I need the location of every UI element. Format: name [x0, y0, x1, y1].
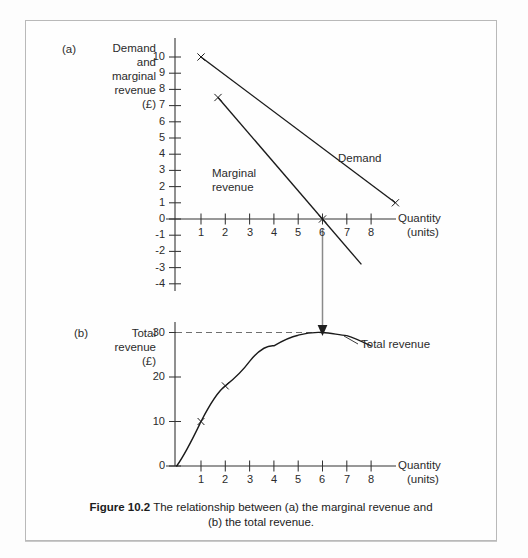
panel-a-ytick-10: 10	[143, 50, 165, 62]
panel-b-ytick-0: 0	[143, 459, 165, 471]
panel-a-x-axis-title: Quantity (units)	[398, 211, 468, 239]
panel-a-ytick-neg1: -1	[139, 228, 165, 240]
panel-b-xtick-6: 6	[314, 473, 330, 485]
panel-b-y-axis-title-line-2: revenue	[76, 340, 156, 354]
figure-caption: Figure 10.2 The relationship between (a)…	[40, 500, 482, 530]
panel-a-xtick-4: 4	[266, 226, 282, 238]
panel-a-ytick-6: 6	[143, 115, 165, 127]
marginal-revenue-label-line-1: Marginal	[212, 166, 256, 180]
panel-b-x-axis-title-line-2: (units)	[398, 472, 468, 486]
panel-a-x-axis-title-line-2: (units)	[398, 225, 468, 239]
panel-b-x-axis-title-line-1: Quantity	[398, 458, 468, 472]
panel-b-xtick-3: 3	[242, 473, 258, 485]
panel-b-xtick-1: 1	[193, 473, 209, 485]
panel-a-ytick-neg2: -2	[139, 244, 165, 256]
total-revenue-curve-label: Total revenue	[361, 337, 430, 351]
panel-a-ytick-neg3: -3	[139, 261, 165, 273]
panel-a-xtick-3: 3	[242, 226, 258, 238]
panel-a-xtick-5: 5	[290, 226, 306, 238]
marginal-revenue-label-line-2: revenue	[212, 180, 256, 194]
panel-b-xtick-2: 2	[217, 473, 233, 485]
panel-a-xtick-7: 7	[339, 226, 355, 238]
panel-b-xtick-4: 4	[266, 473, 282, 485]
figure-caption-text: The relationship between (a) the margina…	[153, 501, 432, 513]
demand-curve-label: Demand	[338, 151, 381, 165]
panel-a-xtick-1: 1	[193, 226, 209, 238]
panel-a-xtick-6: 6	[314, 226, 330, 238]
panel-a-xtick-8: 8	[363, 226, 379, 238]
panel-a-ytick-2: 2	[143, 180, 165, 192]
linking-arrow	[318, 228, 328, 336]
panel-a-ytick-neg4: -4	[139, 277, 165, 289]
panel-b-xtick-7: 7	[339, 473, 355, 485]
figure-container: (a) Demand and marginal revenue (£) 10 9…	[0, 0, 528, 558]
total-revenue-curve	[177, 332, 371, 466]
panel-a-ytick-7: 7	[143, 98, 165, 110]
figure-caption-label: Figure 10.2	[89, 501, 150, 513]
panel-a-ytick-3: 3	[143, 163, 165, 175]
panel-a-ytick-1: 1	[143, 196, 165, 208]
panel-a-xtick-2: 2	[217, 226, 233, 238]
panel-a-x-axis-title-line-1: Quantity	[398, 211, 468, 225]
panel-a-ytick-4: 4	[143, 147, 165, 159]
panel-a-ytick-0: 0	[143, 212, 165, 224]
panel-a-ytick-5: 5	[143, 131, 165, 143]
caption-divider	[25, 541, 497, 542]
figure-caption-text-line2: (b) the total revenue.	[40, 515, 482, 530]
panel-b-ytick-20: 20	[139, 370, 165, 382]
panel-b-xtick-5: 5	[290, 473, 306, 485]
panel-b-x-axis-title: Quantity (units)	[398, 458, 468, 486]
panel-b-ytick-10: 10	[139, 415, 165, 427]
panel-a-ytick-9: 9	[143, 66, 165, 78]
panel-b-y-axis-title-line-3: (£)	[76, 354, 156, 368]
panel-b-ytick-30: 30	[139, 326, 165, 338]
marginal-revenue-curve-label: Marginal revenue	[212, 166, 256, 194]
panel-a-ytick-8: 8	[143, 82, 165, 94]
panel-b-xtick-8: 8	[363, 473, 379, 485]
